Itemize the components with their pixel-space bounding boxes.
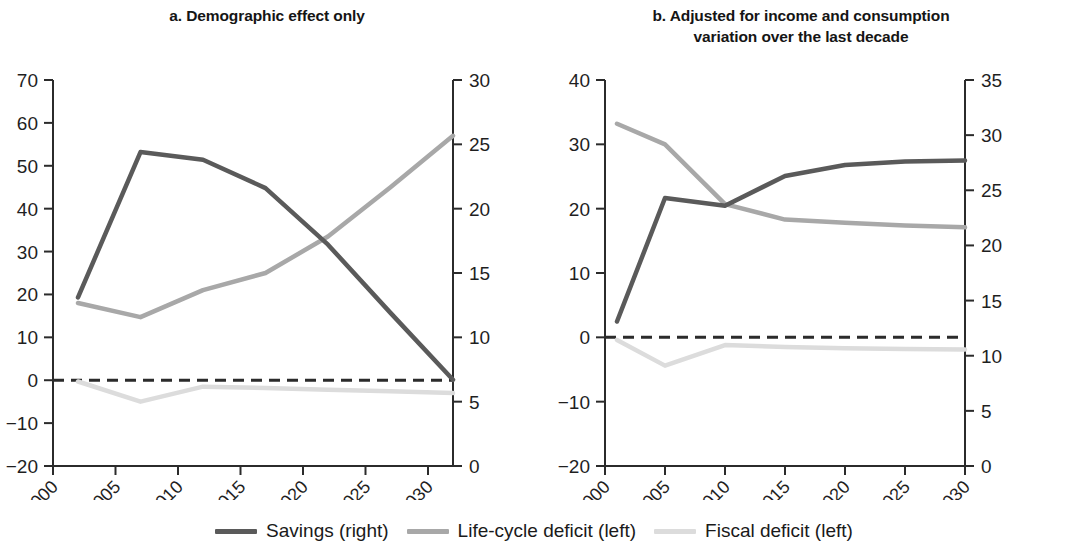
svg-b-right-tick-label: 35 — [981, 70, 1002, 91]
svg-b-left-tick-label: −10 — [558, 392, 590, 413]
legend-swatch-fiscal-deficit — [654, 529, 696, 534]
svg-a-left-tick-label: −20 — [6, 456, 38, 477]
svg-a-x-tick-label: 2000 — [19, 477, 61, 500]
svg-b-x-tick-label: 2015 — [751, 477, 793, 500]
chart-panel-b: b. Adjusted for income and consumption v… — [534, 0, 1068, 500]
panel-a-plot: −20−100102030405060700510152025302000200… — [0, 0, 534, 500]
panel-b-plot: −20−100102030400510152025303520002005201… — [534, 0, 1068, 500]
figure-container: a. Demographic effect only −20−100102030… — [0, 0, 1068, 557]
legend-label-life-cycle-deficit: Life-cycle deficit (left) — [458, 520, 636, 542]
svg-a-right-tick-label: 5 — [469, 392, 480, 413]
svg-a-left-tick-label: 50 — [17, 156, 38, 177]
svg-a-right-tick-label: 30 — [469, 70, 490, 91]
svg-b-x-tick-label: 2005 — [631, 477, 673, 500]
svg-b-right-tick-label: 15 — [981, 291, 1002, 312]
svg-a-left-tick-label: 10 — [17, 327, 38, 348]
legend-item-life-cycle-deficit: Life-cycle deficit (left) — [407, 520, 636, 542]
svg-b-left-tick-label: −20 — [558, 456, 590, 477]
svg-a-x-tick-label: 2020 — [269, 477, 311, 500]
svg-b-left-tick-label: 20 — [569, 199, 590, 220]
legend-swatch-savings — [215, 529, 257, 534]
svg-a-right-tick-label: 10 — [469, 327, 490, 348]
svg-a-x-tick-label: 2025 — [332, 477, 374, 500]
svg-a-left-tick-label: 60 — [17, 113, 38, 134]
svg-b-left-tick-label: 30 — [569, 134, 590, 155]
legend-swatch-life-cycle-deficit — [407, 529, 449, 534]
chart-legend: Savings (right) Life-cycle deficit (left… — [0, 505, 1068, 557]
svg-a-x-tick-label: 2005 — [82, 477, 124, 500]
svg-a-right-tick-label: 0 — [469, 456, 480, 477]
svg-b-right-tick-label: 10 — [981, 346, 1002, 367]
svg-a-right-tick-label: 15 — [469, 263, 490, 284]
svg-b-x-tick-label: 2030 — [931, 477, 973, 500]
svg-a-left-tick-label: 0 — [27, 370, 38, 391]
svg-b-x-tick-label: 2020 — [811, 477, 853, 500]
svg-b-x-tick-label: 2025 — [871, 477, 913, 500]
svg-b-left-tick-label: 40 — [569, 70, 590, 91]
svg-a-left-tick-label: 40 — [17, 199, 38, 220]
svg-b-left-tick-label: 10 — [569, 263, 590, 284]
svg-a-x-tick-label: 2015 — [207, 477, 249, 500]
svg-a-x-tick-label: 2010 — [144, 477, 186, 500]
svg-b-right-tick-label: 5 — [981, 401, 992, 422]
svg-a-right-tick-label: 20 — [469, 199, 490, 220]
svg-a-series-line — [78, 152, 453, 380]
svg-a-left-tick-label: 20 — [17, 284, 38, 305]
svg-b-series-line — [617, 340, 965, 366]
svg-a-x-tick-label: 2030 — [394, 477, 436, 500]
svg-b-x-tick-label: 2000 — [571, 477, 613, 500]
legend-item-savings: Savings (right) — [215, 520, 389, 542]
svg-b-right-tick-label: 0 — [981, 456, 992, 477]
svg-b-x-tick-label: 2010 — [691, 477, 733, 500]
legend-label-savings: Savings (right) — [266, 520, 389, 542]
svg-b-right-tick-label: 25 — [981, 180, 1002, 201]
chart-panel-a: a. Demographic effect only −20−100102030… — [0, 0, 534, 500]
svg-b-left-tick-label: 0 — [579, 327, 590, 348]
svg-a-right-tick-label: 25 — [469, 134, 490, 155]
legend-item-fiscal-deficit: Fiscal deficit (left) — [654, 520, 853, 542]
svg-b-right-tick-label: 30 — [981, 125, 1002, 146]
svg-a-left-tick-label: −10 — [6, 413, 38, 434]
svg-b-right-tick-label: 20 — [981, 235, 1002, 256]
svg-a-series-line — [78, 382, 453, 402]
svg-b-series-line — [617, 161, 965, 322]
svg-a-left-tick-label: 30 — [17, 242, 38, 263]
legend-label-fiscal-deficit: Fiscal deficit (left) — [705, 520, 853, 542]
svg-a-left-tick-label: 70 — [17, 70, 38, 91]
